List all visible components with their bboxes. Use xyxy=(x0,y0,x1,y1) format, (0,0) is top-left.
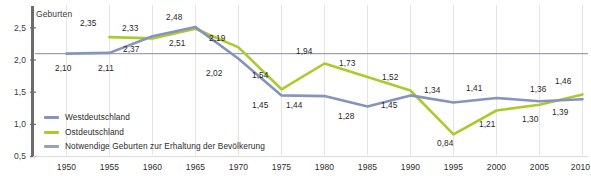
x-tick-label-1955: 1955 xyxy=(90,162,130,172)
point-label-west-1960: 2,37 xyxy=(123,44,140,54)
y-tick-label-2-0: 2,0 xyxy=(4,55,26,65)
point-label-ost-2000: 1,21 xyxy=(479,119,496,129)
legend-label-replacement-level: Notwendige Geburten zur Erhaltung der Be… xyxy=(65,141,265,152)
point-label-ost-1975: 1,54 xyxy=(252,70,269,80)
legend-label-westdeutschland: Westdeutschland xyxy=(65,112,130,123)
point-label-west-1995: 1,34 xyxy=(424,85,441,95)
point-label-ost-1985: 1,73 xyxy=(339,58,356,68)
point-label-west-2000: 1,41 xyxy=(466,83,483,93)
point-label-ost-1955: 2,35 xyxy=(80,18,97,28)
y-tick-label-0-5: 0,5 xyxy=(4,151,26,161)
point-label-west-1980: 1,44 xyxy=(286,100,303,110)
x-tick-label-1970: 1970 xyxy=(219,162,259,172)
y-tick-label-2-5: 2,5 xyxy=(4,23,26,33)
legend-label-ostdeutschland: Ostdeutschland xyxy=(65,127,124,138)
x-tick-label-2000: 2000 xyxy=(477,162,517,172)
legend-swatch-ostdeutschland xyxy=(44,131,59,134)
point-label-west-1955: 2,11 xyxy=(98,63,114,73)
legend-item-ostdeutschland[interactable]: Ostdeutschland xyxy=(44,127,265,139)
point-label-ost-2010: 1,46 xyxy=(555,76,572,86)
point-label-ost-2005: 1,30 xyxy=(522,114,539,124)
point-label-west-1975: 1,45 xyxy=(252,100,269,110)
point-label-west-2010: 1,39 xyxy=(552,107,569,117)
x-tick-label-1985: 1985 xyxy=(348,162,388,172)
y-tick-label-1-0: 1,0 xyxy=(4,119,26,129)
legend-swatch-replacement-level xyxy=(44,145,59,148)
x-tick-label-1950: 1950 xyxy=(47,162,87,172)
point-label-ost-1965: 2,48 xyxy=(166,12,183,22)
chart-legend: Westdeutschland Ostdeutschland Notwendig… xyxy=(44,112,265,156)
x-tick-label-1995: 1995 xyxy=(434,162,474,172)
point-label-west-1990: 1,45 xyxy=(381,100,398,110)
x-tick-label-1990: 1990 xyxy=(391,162,431,172)
x-tick-label-2005: 2005 xyxy=(520,162,560,172)
point-label-west-1965: 2,51 xyxy=(169,38,186,48)
y-axis-title: Geburten xyxy=(36,9,72,19)
point-label-ost-1970: 2,19 xyxy=(209,33,226,43)
x-tick-label-1960: 1960 xyxy=(133,162,173,172)
point-label-ost-1960: 2,33 xyxy=(122,23,139,33)
legend-item-replacement-level[interactable]: Notwendige Geburten zur Erhaltung der Be… xyxy=(44,141,265,153)
point-label-west-1970: 2,02 xyxy=(206,68,223,78)
legend-item-westdeutschland[interactable]: Westdeutschland xyxy=(44,112,265,124)
x-tick-label-1965: 1965 xyxy=(176,162,216,172)
point-label-ost-1995: 0,84 xyxy=(437,138,454,148)
legend-swatch-westdeutschland xyxy=(44,116,59,119)
birth-rate-line-chart: Geburten 2,5 2,0 1,5 1,0 0,5 1950 1955 1… xyxy=(0,0,591,179)
point-label-ost-1990: 1,52 xyxy=(382,72,399,82)
x-tick-label-2010: 2010 xyxy=(561,162,591,172)
point-label-west-1950: 2,10 xyxy=(55,63,72,73)
point-label-west-2005: 1,36 xyxy=(530,84,547,94)
point-label-ost-1980: 1,94 xyxy=(296,46,313,56)
x-tick-label-1980: 1980 xyxy=(305,162,345,172)
y-tick-label-1-5: 1,5 xyxy=(4,87,26,97)
point-label-west-1985: 1,28 xyxy=(338,111,355,121)
x-tick-label-1975: 1975 xyxy=(262,162,302,172)
